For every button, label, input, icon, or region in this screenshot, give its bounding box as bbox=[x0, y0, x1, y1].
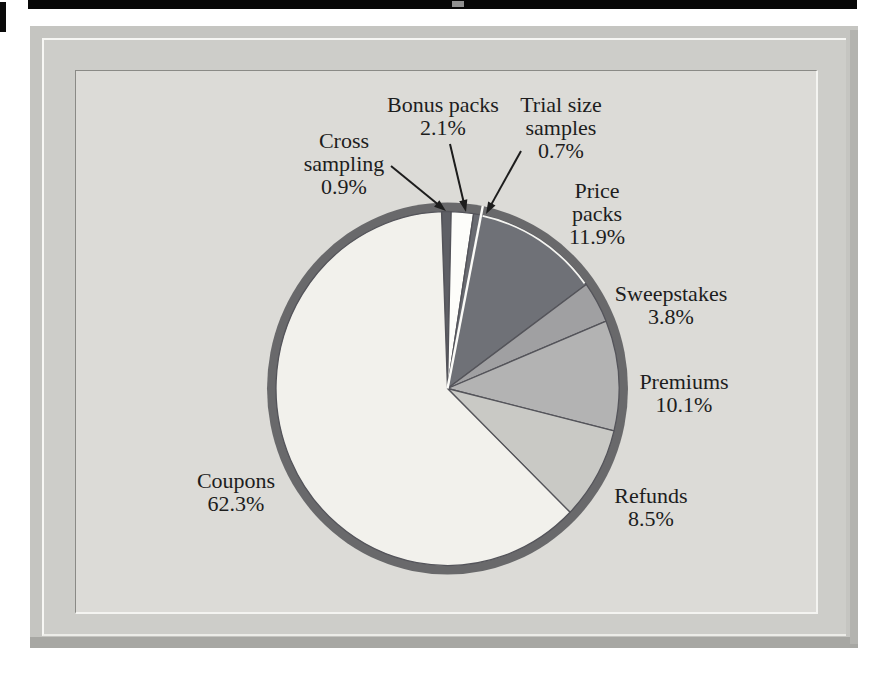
callout-cross-sampling: Cross sampling 0.9% bbox=[304, 129, 385, 198]
leader-line bbox=[450, 144, 464, 203]
callout-premiums: Premiums 10.1% bbox=[639, 370, 728, 416]
callout-bonus-packs: Bonus packs 2.1% bbox=[387, 93, 499, 139]
callout-sweepstakes: Sweepstakes 3.8% bbox=[615, 282, 727, 328]
callout-coupons: Coupons 62.3% bbox=[197, 469, 275, 515]
leader-line bbox=[391, 166, 439, 205]
callout-refunds: Refunds 8.5% bbox=[614, 484, 687, 530]
scanned-page: Cross sampling 0.9% Bonus packs 2.1% Tri… bbox=[0, 0, 888, 673]
callout-trial-size-samples: Trial size samples 0.7% bbox=[520, 93, 602, 162]
leader-line bbox=[490, 151, 521, 206]
callout-price-packs: Price packs 11.9% bbox=[569, 179, 625, 248]
